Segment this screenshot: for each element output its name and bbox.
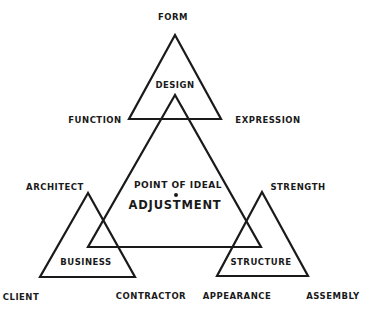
contractor-label: CONTRACTOR bbox=[116, 292, 186, 301]
business-label: BUSINESS bbox=[60, 258, 111, 267]
structure-label: STRUCTURE bbox=[230, 258, 291, 267]
form-label: FORM bbox=[158, 13, 188, 22]
expression-label: EXPRESSION bbox=[235, 116, 300, 125]
assembly-label: ASSEMBLY bbox=[306, 292, 359, 301]
appearance-label: APPEARANCE bbox=[203, 292, 272, 301]
triangle-lines bbox=[0, 0, 377, 317]
center-line-2: ADJUSTMENT bbox=[129, 200, 222, 212]
strength-label: STRENGTH bbox=[270, 183, 325, 192]
architect-label: ARCHITECT bbox=[26, 183, 84, 192]
center-line-1: POINT OF IDEAL bbox=[134, 181, 222, 190]
function-label: FUNCTION bbox=[68, 116, 121, 125]
ideal-point-dot bbox=[174, 193, 178, 197]
design-label: DESIGN bbox=[155, 81, 194, 90]
triad-diagram: FORM DESIGN FUNCTION EXPRESSION POINT OF… bbox=[0, 0, 377, 317]
design-triangle bbox=[129, 35, 221, 119]
client-label: CLIENT bbox=[3, 293, 40, 302]
